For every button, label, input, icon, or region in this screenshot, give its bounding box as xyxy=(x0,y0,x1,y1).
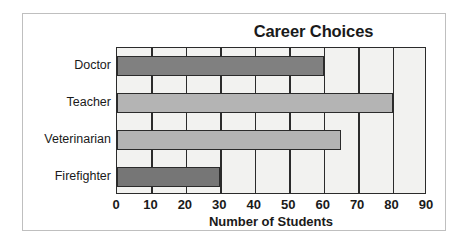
plot-area xyxy=(116,47,426,194)
x-tick-90: 90 xyxy=(406,197,446,212)
x-axis-tick-labels: 0102030405060708090 xyxy=(116,197,426,215)
bar-firefighter xyxy=(117,167,220,187)
bar-veterinarian xyxy=(117,130,341,150)
category-axis-labels: DoctorTeacherVeterinarianFirefighter xyxy=(0,47,111,194)
bar-doctor xyxy=(117,56,324,76)
bars-layer xyxy=(117,48,425,193)
chart-title: Career Choices xyxy=(201,22,426,41)
bar-fill xyxy=(117,56,324,76)
bar-fill xyxy=(117,93,393,113)
x-axis-title: Number of Students xyxy=(116,214,426,229)
category-label-veterinarian: Veterinarian xyxy=(0,132,111,146)
bar-teacher xyxy=(117,93,393,113)
bar-fill xyxy=(117,167,220,187)
chart-figure: Career Choices DoctorTeacherVeterinarian… xyxy=(22,13,446,231)
bar-fill xyxy=(117,130,341,150)
category-label-teacher: Teacher xyxy=(0,95,111,109)
category-label-firefighter: Firefighter xyxy=(0,169,111,183)
category-label-doctor: Doctor xyxy=(0,58,111,72)
